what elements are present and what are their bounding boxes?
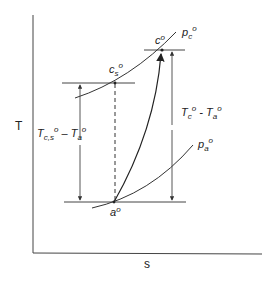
point-a xyxy=(113,201,116,204)
ts-diagram: T s co cso ao pco pao Tc,so – Tao Tco - … xyxy=(0,0,275,281)
label-isentropic-rise: Tc,so – Tao xyxy=(37,125,87,142)
isobar-pa xyxy=(92,145,193,208)
x-axis xyxy=(33,253,262,254)
x-axis-label: s xyxy=(144,257,150,271)
label-actual-rise: Tco - Tao xyxy=(181,104,222,121)
label-pc: pco xyxy=(181,24,197,41)
label-pa: pao xyxy=(197,136,214,153)
point-cs xyxy=(114,82,117,85)
y-axis-label: T xyxy=(15,119,23,133)
label-a: ao xyxy=(110,205,121,218)
point-c xyxy=(160,48,163,51)
label-cs: cso xyxy=(109,61,124,78)
